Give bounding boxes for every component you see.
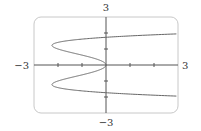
- y-max-label: 3: [103, 2, 109, 13]
- y-min-label: −3: [99, 117, 114, 128]
- x-max-label: 3: [182, 60, 188, 71]
- chart: 3 −3 −3 3: [0, 0, 201, 131]
- x-min-label: −3: [14, 60, 29, 71]
